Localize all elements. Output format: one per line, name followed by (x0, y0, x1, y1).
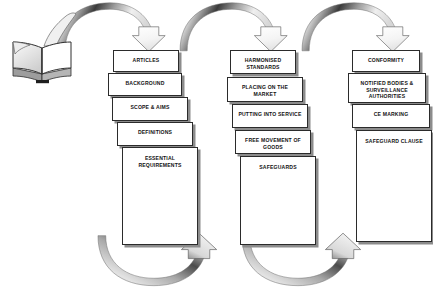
top-arrow-1 (58, 3, 165, 52)
card-label: SAFEGUARDS (241, 157, 315, 171)
card-label: FREE MOVEMENT OF GOODS (236, 131, 310, 150)
card-label: PLACING ON THE MARKET (228, 78, 302, 97)
open-book-icon (13, 13, 76, 83)
card-label: SCOPE & AIMS (113, 98, 187, 111)
card-label: PUTTING INTO SERVICE (233, 105, 307, 118)
card-definitions[interactable]: DEFINITIONS (117, 122, 193, 146)
card-label: HARMONISED STANDARDS (231, 51, 295, 70)
card-harmonised-standards[interactable]: HARMONISED STANDARDS (230, 50, 296, 74)
card-label: ESSENTIAL REQUIREMENTS (123, 148, 197, 168)
card-background[interactable]: BACKGROUND (108, 73, 182, 96)
card-conformity[interactable]: CONFORMITY (352, 50, 420, 72)
card-label: SAFEGUARD CLAUSE (357, 131, 431, 145)
card-label: DEFINITIONS (118, 123, 192, 136)
card-articles[interactable]: ARTICLES (113, 50, 179, 72)
card-essential-requirements[interactable]: ESSENTIAL REQUIREMENTS (122, 147, 198, 245)
card-safeguard-clause[interactable]: SAFEGUARD CLAUSE (356, 130, 432, 242)
top-arrow-3 (302, 3, 409, 52)
card-placing-on-the-market[interactable]: PLACING ON THE MARKET (227, 77, 303, 102)
card-notified-bodies-and-surveillance-authorities[interactable]: NOTIFIED BODIES & SURVEILLANCE AUTHORITI… (348, 73, 426, 103)
card-scope-and-aims[interactable]: SCOPE & AIMS (112, 97, 188, 121)
card-free-movement-of-goods[interactable]: FREE MOVEMENT OF GOODS (235, 130, 311, 154)
flow-diagram: ARTICLES BACKGROUND SCOPE & AIMS DEFINIT… (0, 0, 433, 299)
card-ce-marking[interactable]: CE MARKING (352, 104, 430, 128)
card-label: CONFORMITY (353, 51, 419, 64)
card-putting-into-service[interactable]: PUTTING INTO SERVICE (232, 104, 308, 128)
card-label: CE MARKING (353, 105, 429, 118)
card-label: BACKGROUND (109, 74, 181, 87)
card-safeguards[interactable]: SAFEGUARDS (240, 156, 316, 245)
card-label: ARTICLES (114, 51, 178, 64)
top-arrow-2 (180, 3, 287, 52)
card-label: NOTIFIED BODIES & SURVEILLANCE AUTHORITI… (349, 74, 425, 100)
